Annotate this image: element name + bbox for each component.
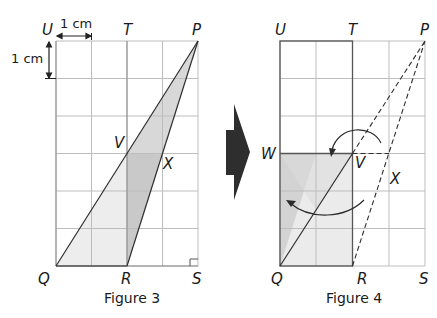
label-V: V <box>114 134 126 152</box>
label-P: P <box>420 21 430 39</box>
label-U: U <box>42 21 53 39</box>
figure-3: 1 cm 1 cm U T P V X Q R S Figure 3 <box>11 16 202 306</box>
label-V: V <box>355 154 367 172</box>
caption-figure-3: Figure 3 <box>104 290 160 306</box>
label-U: U <box>275 21 286 39</box>
label-X: X <box>389 170 401 188</box>
caption-figure-4: Figure 4 <box>326 290 382 306</box>
label-R: R <box>121 270 131 288</box>
label-P: P <box>192 21 202 39</box>
label-S: S <box>419 270 429 288</box>
label-T: T <box>123 21 134 39</box>
rotation-arrow-upper <box>332 130 381 150</box>
label-R: R <box>357 270 367 288</box>
label-S: S <box>192 270 202 288</box>
dimension-horizontal-label: 1 cm <box>60 16 92 31</box>
diagram-canvas: 1 cm 1 cm U T P V X Q R S Figure 3 <box>0 0 437 318</box>
label-T: T <box>348 21 359 39</box>
dimension-horizontal <box>57 33 92 40</box>
label-Q: Q <box>38 270 50 288</box>
dimension-vertical-label: 1 cm <box>11 51 43 66</box>
label-W: W <box>261 145 277 163</box>
dimension-vertical <box>45 42 56 79</box>
figure-4: U T P W V X Q R S Figure 4 <box>261 21 430 306</box>
right-angle-marker <box>190 259 198 266</box>
label-X: X <box>162 155 174 173</box>
label-Q: Q <box>271 270 283 288</box>
transition-arrow-icon <box>226 104 250 200</box>
